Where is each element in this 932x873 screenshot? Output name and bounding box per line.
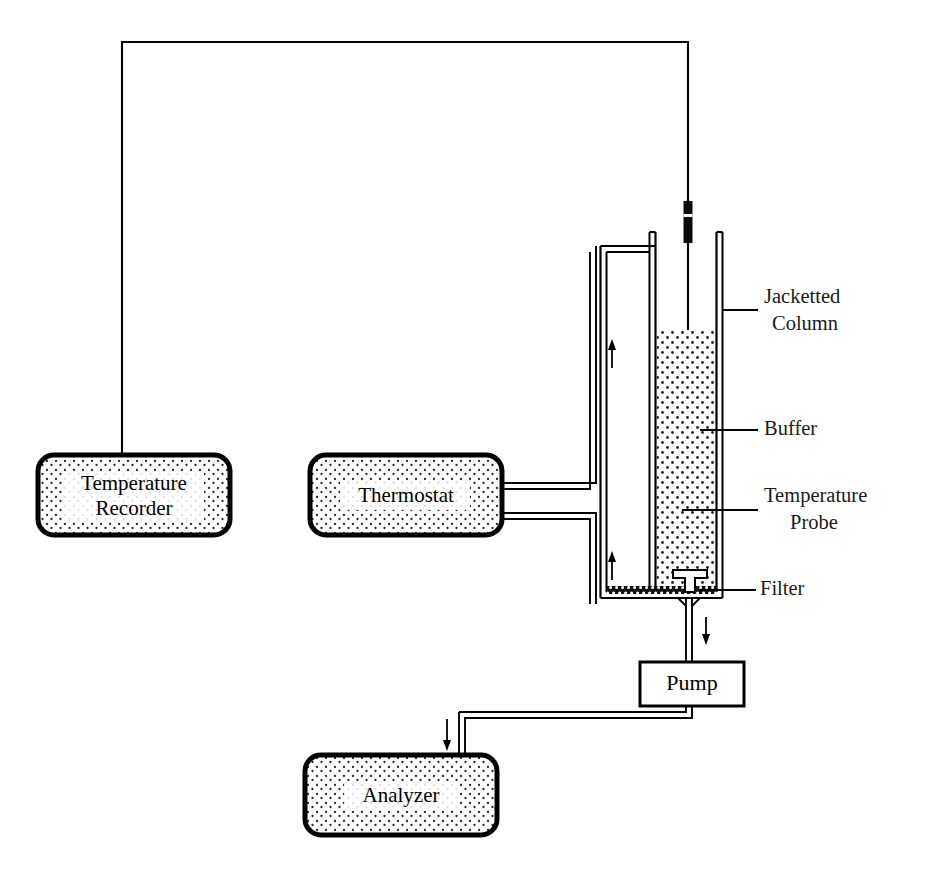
- column-outlet-flow-arrow: [702, 617, 710, 645]
- analyzer-inlet-flow-arrow: [443, 719, 451, 751]
- thermostat-label: Thermostat: [358, 483, 454, 507]
- thermostat-supply-tube: [500, 246, 596, 489]
- annotation-temperature-probe-line2: Probe: [790, 511, 838, 533]
- annotation-filter-label: Filter: [760, 577, 805, 599]
- pump-box[interactable]: Pump: [640, 662, 744, 706]
- pump-label: Pump: [666, 670, 717, 695]
- annotation-jacketted-column-line1: Jacketted: [764, 285, 840, 307]
- temperature-recorder-label-line2: Recorder: [96, 496, 173, 520]
- analyzer-box[interactable]: Analyzer: [305, 755, 497, 835]
- jacket-lower-flow-arrow: [608, 551, 616, 580]
- annotation-temperature-probe-line1: Temperature: [764, 484, 867, 507]
- annotation-jacketted-column: Jacketted Column: [722, 285, 840, 334]
- annotation-jacketted-column-line2: Column: [772, 312, 838, 334]
- column-outlet-tube: [678, 598, 700, 662]
- diagram-canvas: Temperature Recorder Thermostat Analyzer…: [0, 0, 932, 873]
- jacketted-column: [601, 232, 723, 598]
- thermostat-box[interactable]: Thermostat: [310, 455, 502, 535]
- pump-to-analyzer-tube: [459, 706, 692, 755]
- probe-wire: [122, 42, 688, 455]
- jacket-upper-flow-arrow: [608, 339, 616, 368]
- analyzer-label: Analyzer: [363, 783, 440, 807]
- annotation-buffer-label: Buffer: [764, 417, 817, 439]
- schematic-diagram: Temperature Recorder Thermostat Analyzer…: [0, 0, 932, 873]
- thermostat-return-tube: [500, 513, 596, 604]
- buffer-bed: [657, 330, 715, 592]
- temperature-recorder-box[interactable]: Temperature Recorder: [38, 455, 230, 535]
- temperature-recorder-label-line1: Temperature: [81, 471, 187, 495]
